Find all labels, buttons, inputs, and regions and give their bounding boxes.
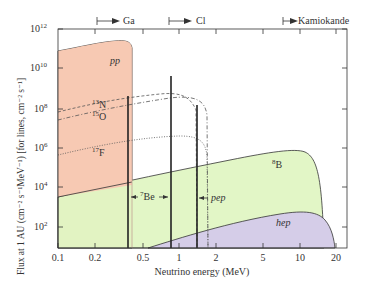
threshold-ga: Ga <box>97 15 135 26</box>
x-tick-label: 2 <box>214 252 219 263</box>
x-tick-label: 0.2 <box>89 252 102 263</box>
svg-text:Ga: Ga <box>123 15 135 26</box>
x-tick-label: 10 <box>295 252 305 263</box>
x-axis-label: Neutrino energy (MeV) <box>155 266 250 278</box>
threshold-kamiokande: Kamiokande <box>283 15 350 26</box>
svg-text:Kamiokande: Kamiokande <box>298 15 350 26</box>
y-axis-label: Flux at 1 AU (cm⁻² s⁻¹MeV⁻¹) [for lines,… <box>16 78 27 275</box>
pp-spectrum-overlap <box>58 41 132 197</box>
x-tick-label: 5 <box>261 252 266 263</box>
detector-thresholds: Ga Cl Kamiokande <box>97 15 350 26</box>
solar-neutrino-spectrum-chart: 1012 1010 108 106 104 102 Flux at 1 AU (… <box>0 0 370 289</box>
y-tick-label-1e2: 102 <box>34 220 48 232</box>
svg-text:pep: pep <box>210 192 225 203</box>
y-tick-label-1e6: 106 <box>34 141 48 153</box>
x-tick-label: 0.5 <box>137 252 150 263</box>
y-tick-label-1e12: 1012 <box>30 22 48 34</box>
arrow-right-icon <box>184 18 192 24</box>
threshold-cl: Cl <box>169 15 206 26</box>
y-tick-label-1e10: 1010 <box>30 61 48 73</box>
x-tick-label: 0.1 <box>52 252 65 263</box>
y-tick-label-1e8: 108 <box>34 102 48 114</box>
x-tick-label: 1 <box>177 252 182 263</box>
label-pp: pp <box>109 55 120 66</box>
y-tick-label-1e4: 104 <box>34 180 48 192</box>
arrow-right-icon <box>290 18 298 24</box>
arrow-right-icon <box>112 18 120 24</box>
plot-area <box>58 29 347 248</box>
svg-text:Cl: Cl <box>196 15 206 26</box>
label-hep: hep <box>276 217 290 228</box>
x-tick-label: 20 <box>331 252 341 263</box>
